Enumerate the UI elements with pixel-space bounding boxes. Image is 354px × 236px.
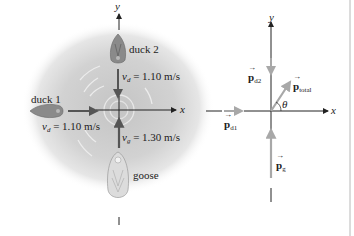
- p-d1-label: pd1: [224, 119, 237, 132]
- figure: y x duck 2 vd = 1.10 m/s duck 1 vd = 1.1…: [0, 0, 354, 236]
- duck2-velocity-label: vd = 1.10 m/s: [122, 71, 180, 84]
- duck1-velocity-label: vd = 1.10 m/s: [42, 121, 100, 134]
- right-y-axis-label: y: [269, 12, 274, 23]
- p-total-label: ptotal: [293, 81, 312, 94]
- theta-label: θ: [282, 99, 287, 110]
- p-d2-label: pd2: [248, 72, 261, 85]
- right-x-axis-label: x: [331, 105, 336, 116]
- left-y-axis-label: y: [115, 1, 120, 12]
- goose-velocity-label: vg = 1.30 m/s: [122, 132, 180, 145]
- diagram-canvas: [0, 0, 354, 236]
- duck2-label: duck 2: [129, 44, 159, 55]
- goose-label: goose: [133, 170, 159, 181]
- left-x-axis-label: x: [180, 104, 185, 115]
- duck1-label: duck 1: [31, 94, 61, 105]
- p-g-label: pg: [276, 160, 286, 173]
